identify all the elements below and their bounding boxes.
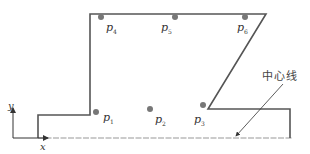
label-p5: p5 [161,22,172,35]
y-axis-label: y [8,101,14,111]
centerline-leader [236,84,283,136]
label-p3: p3 [194,114,205,127]
label-p6: p6 [237,22,248,35]
point-p3 [200,102,206,108]
point-p4 [98,14,104,20]
point-p5 [172,14,178,20]
label-p1: p1 [103,112,114,125]
centerline-label: 中心线 [262,71,298,82]
x-axis-label: x [40,142,46,152]
point-p2 [147,106,153,112]
label-p2: p2 [155,114,166,127]
point-p1 [93,109,99,115]
label-p4: p4 [106,22,117,35]
point-p6 [242,14,248,20]
